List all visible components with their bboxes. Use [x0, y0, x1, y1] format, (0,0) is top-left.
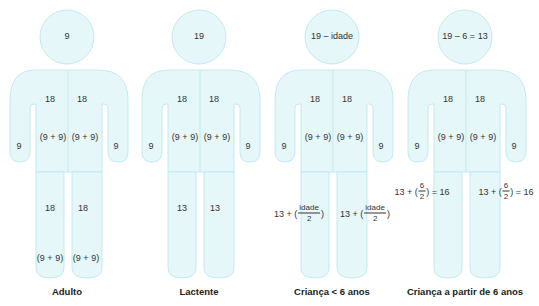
- arm-left-value: 9: [414, 141, 419, 151]
- formula-prefix: 13 + (: [479, 186, 502, 196]
- arm-right-value: 9: [113, 141, 118, 151]
- figure-lactente: 19 18 18 (9 + 9) (9 + 9) 9 9 13 13 Lacte…: [132, 0, 267, 306]
- leg-right-value: 18: [78, 203, 88, 213]
- arm-left-value: 9: [148, 141, 153, 151]
- trunk-left-breakdown: (9 + 9): [40, 132, 66, 142]
- chest-right-value: 18: [77, 94, 87, 104]
- head-value: 19 – idade: [311, 31, 353, 41]
- chest-right-value: 18: [209, 94, 219, 104]
- arm-left-value: 9: [16, 141, 21, 151]
- leg-left-formula: 13 + ( idade 2 ): [274, 204, 324, 223]
- formula-prefix: 13 + (: [395, 186, 418, 196]
- figure-caption: Adulto: [52, 286, 82, 297]
- fraction-numerator: 6: [503, 182, 509, 192]
- arm-left-value: 9: [281, 141, 286, 151]
- formula-suffix: ): [321, 208, 324, 218]
- arm-right-value: 9: [245, 141, 250, 151]
- trunk-left-breakdown: (9 + 9): [172, 132, 198, 142]
- formula-prefix: 13 + (: [340, 208, 363, 218]
- fraction-denominator: 2: [420, 192, 424, 201]
- leg-right-breakdown: (9 + 9): [73, 253, 99, 263]
- chest-left-value: 18: [443, 94, 453, 104]
- body-silhouette: [398, 0, 533, 306]
- body-silhouette: [0, 0, 135, 306]
- figure-crianca-6-mais: 19 – 6 = 13 18 18 (9 + 9) (9 + 9) 9 9 13…: [398, 0, 533, 306]
- fraction: idade 2: [364, 204, 386, 223]
- leg-right-value: 13: [210, 203, 220, 213]
- body-silhouette: [132, 0, 267, 306]
- figure-adulto: 9 18 18 (9 + 9) (9 + 9) 9 9 18 18 (9 + 9…: [0, 0, 135, 306]
- formula-suffix: ) = 16: [426, 186, 449, 196]
- fraction-numerator: idade: [298, 204, 320, 214]
- formula-suffix: ): [387, 208, 390, 218]
- fraction: 6 2: [503, 182, 509, 201]
- arm-right-value: 9: [511, 141, 516, 151]
- head-value: 9: [64, 31, 69, 41]
- trunk-left-breakdown: (9 + 9): [438, 132, 464, 142]
- fraction-numerator: idade: [364, 204, 386, 214]
- fraction-numerator: 6: [419, 182, 425, 192]
- head-value: 19: [194, 31, 204, 41]
- fraction: idade 2: [298, 204, 320, 223]
- chest-left-value: 18: [177, 94, 187, 104]
- figure-caption: Lactente: [179, 286, 218, 297]
- leg-left-value: 13: [177, 203, 187, 213]
- body-silhouette: [265, 0, 400, 306]
- fraction-denominator: 2: [504, 192, 508, 201]
- leg-left-formula: 13 + ( 6 2 ) = 16: [395, 182, 450, 201]
- trunk-right-breakdown: (9 + 9): [337, 132, 363, 142]
- formula-prefix: 13 + (: [274, 208, 297, 218]
- fraction: 6 2: [419, 182, 425, 201]
- chest-right-value: 18: [342, 94, 352, 104]
- leg-left-breakdown: (9 + 9): [37, 253, 63, 263]
- figure-crianca-menor-6: 19 – idade 18 18 (9 + 9) (9 + 9) 9 9 13 …: [265, 0, 400, 306]
- chest-right-value: 18: [475, 94, 485, 104]
- formula-suffix: ) = 16: [510, 186, 533, 196]
- arm-right-value: 9: [378, 141, 383, 151]
- trunk-left-breakdown: (9 + 9): [305, 132, 331, 142]
- trunk-right-breakdown: (9 + 9): [72, 132, 98, 142]
- fraction-denominator: 2: [307, 214, 311, 223]
- leg-right-formula: 13 + ( 6 2 ) = 16: [479, 182, 534, 201]
- chest-left-value: 18: [45, 94, 55, 104]
- figure-caption: Criança < 6 anos: [294, 286, 370, 297]
- head-value: 19 – 6 = 13: [442, 31, 487, 41]
- fraction-denominator: 2: [373, 214, 377, 223]
- trunk-right-breakdown: (9 + 9): [470, 132, 496, 142]
- figure-caption: Criança a partir de 6 anos: [407, 286, 523, 297]
- leg-left-value: 18: [45, 203, 55, 213]
- trunk-right-breakdown: (9 + 9): [204, 132, 230, 142]
- leg-right-formula: 13 + ( idade 2 ): [340, 204, 390, 223]
- chest-left-value: 18: [310, 94, 320, 104]
